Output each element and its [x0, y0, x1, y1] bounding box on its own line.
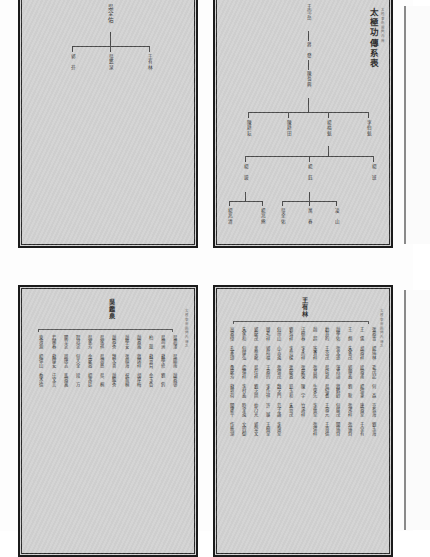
lineage-connector	[373, 156, 374, 162]
roster-name: 張瑞齊	[347, 422, 351, 435]
roster-rule	[38, 329, 172, 330]
roster-name: 趙壽嵩	[135, 335, 139, 348]
roster-name: 關建平	[229, 403, 233, 416]
roster-name: 張文遂	[335, 346, 339, 359]
lineage-node-gen6: 吳全佑	[280, 208, 285, 224]
roster-name: 金玉魯	[148, 373, 152, 386]
roster-name: 小志遠	[276, 346, 280, 359]
roster-name: 金慶壽	[87, 354, 91, 367]
roster-name: 李煥堂	[276, 422, 280, 435]
roster-rule-tick	[38, 329, 39, 332]
roster-name: 桑慶芳	[229, 365, 233, 378]
roster-name: 趙 超	[311, 327, 315, 340]
lineage-connector	[328, 146, 329, 156]
lineage-node-gen4: 李伯魁	[366, 120, 371, 136]
roster-column: 趙學佑張文遂蓮昌諳蔣鶴齡何蔭茂關瑞齊	[331, 327, 343, 441]
roster-rule	[233, 321, 368, 322]
lineage-connector	[288, 112, 289, 118]
roster-column: 柏 琨蘇景賢金玉魯	[144, 335, 156, 392]
lineage-connector	[309, 156, 310, 162]
roster-rule-tick	[172, 329, 173, 332]
lineage-sibling-bar	[229, 201, 262, 202]
lineage-node-gen4: 楊福魁	[326, 120, 331, 136]
roster-column: 郭慶茂黃金龍吳在祥劉芝岡仲乃光郭受文	[249, 327, 261, 441]
lineage-node-gen4: 陳耕耘	[246, 120, 251, 136]
roster-name: 關立忠	[62, 335, 66, 348]
roster-name: 趙學佑	[335, 327, 339, 340]
roster-column: 東海源楊德山喬木德	[34, 335, 46, 392]
roster-name: 張昌興	[311, 365, 315, 378]
roster-name: 魏文喜	[111, 354, 115, 367]
lineage-node-gen5: 楊 鋑	[243, 164, 248, 180]
tree-node-root: 吳全佑	[107, 4, 113, 23]
roster-name: 遙香祥	[311, 346, 315, 359]
lineage-connector	[336, 201, 337, 206]
adjacent-leaf-edge-top	[404, 6, 430, 244]
roster-name: 喬木德	[38, 373, 42, 386]
roster-name: 唐壽堂	[358, 403, 362, 416]
roster-name: 許 展	[264, 403, 268, 416]
roster-name: 何崗山	[276, 327, 280, 340]
roster-name: 文的御	[240, 422, 244, 435]
roster-name: 劉 釣	[160, 373, 164, 386]
roster-column: 吳家祺吳潤慈吳 桐	[95, 335, 107, 392]
roster-name: 王 儒	[358, 327, 362, 340]
roster-name: 吳圖南	[172, 354, 176, 367]
roster-name: 王壽的	[264, 365, 268, 378]
roster-name: 蘇垣荷	[229, 384, 233, 397]
roster-name: 作振湖	[229, 422, 233, 435]
roster-name: 吳家祺	[99, 335, 103, 348]
roster-name: 孔憲璋	[229, 346, 233, 359]
roster-heading-bottom-right: 王有林	[301, 297, 307, 318]
lineage-sibling-bar	[248, 112, 368, 113]
roster-name: 李永祥	[299, 346, 303, 359]
roster-column: 王 儒胡壽祥段壽甫楊德筆唐壽堂于卓有	[355, 327, 367, 441]
roster-name: 汪樹春	[299, 327, 303, 340]
roster-name: 勸其昀	[323, 327, 327, 340]
roster-name: 王克茂	[323, 346, 327, 359]
lineage-connector	[308, 60, 309, 70]
roster-column: 若國春蘇蔭安汪文言	[46, 335, 58, 392]
roster-name: 蘇景賢	[148, 354, 152, 367]
roster-column: 關立忠周唐志馬壽嵩	[58, 335, 70, 392]
roster-name: 張鴻祥	[347, 403, 351, 416]
roster-name: 時全遠	[240, 403, 244, 416]
roster-name: 吳潤洲	[160, 335, 164, 348]
roster-name: 蘇學修	[160, 354, 164, 367]
roster-name: 吳 桐	[99, 373, 103, 386]
roster-column: 王 炯朱家茂郭順義劉 耿張鴻祥張瑞齊	[343, 327, 355, 441]
roster-name: 吳廷斌	[323, 365, 327, 378]
roster-name: 郭順義	[347, 365, 351, 378]
lineage-connector	[262, 201, 263, 206]
roster-column: 韓毛祥郭培福王壽的李作祺許 展王樹堂	[260, 327, 272, 441]
lineage-node-gen2: 蔣 發	[306, 42, 311, 58]
roster-name: 關瑞齊	[335, 422, 339, 435]
roster-name: 張鍾海	[123, 354, 127, 367]
tree-node-child: 郭 芬	[70, 54, 75, 70]
lineage-node-gen4: 陳耕田	[286, 120, 291, 136]
roster-name: 李作祺	[264, 384, 268, 397]
lineage-connector	[282, 201, 283, 206]
roster-name: 張德茂	[276, 365, 280, 378]
roster-name: 蔣鶴齡	[335, 384, 339, 397]
roster-name: 陳 宇	[299, 384, 303, 397]
roster-name: 東海源	[38, 335, 42, 348]
roster-name: 何蔭茂	[335, 403, 339, 416]
roster-name: 劉芝岡	[252, 384, 256, 397]
top-left-leaf: 吳全佑 王有林 吳鑑泉 郭 芬	[18, 0, 198, 248]
roster-column: 劉長祥李世樑張慶壽鉛玉和朱景茂一	[284, 327, 296, 441]
roster-name: 黃金龍	[252, 346, 256, 359]
roster-name: 鉛玉和	[288, 384, 292, 397]
roster-name: 劉 耿	[347, 384, 351, 397]
roster-name: 朱景茂	[288, 403, 292, 416]
roster-name: 趙學安	[123, 335, 127, 348]
lineage-connector	[308, 31, 309, 41]
roster-name: 段壽甫	[358, 365, 362, 378]
roster-name: 吳紹耆	[323, 384, 327, 397]
lineage-connector	[308, 98, 309, 112]
roster-name: 王喜德	[323, 422, 327, 435]
tree-node-child: 吳鑑泉	[108, 54, 113, 70]
lineage-connector	[229, 201, 230, 206]
roster-name: 毛茂起	[370, 365, 374, 378]
